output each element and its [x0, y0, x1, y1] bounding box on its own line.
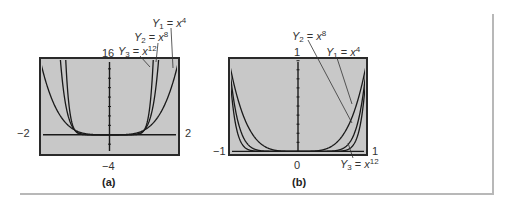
panel-b-ymax-label: 1 — [294, 47, 300, 58]
panel-b-label-y2: Y2 = x8 — [292, 30, 326, 44]
panel-a-label-y1: Y1 = x4 — [152, 17, 186, 31]
panel-a-label-y2: Y2 = x8 — [134, 31, 168, 45]
calculator-screen-b — [229, 58, 367, 155]
panel-b-xmax-label: 1 — [372, 146, 378, 157]
panel-b-ymin-label: 0 — [294, 160, 300, 171]
calculator-screen-a — [40, 49, 179, 155]
panel-a-label-y3: Y3 = x12 — [118, 45, 157, 59]
panel-b-xmin-label: −1 — [213, 146, 226, 157]
panel-b-caption: (b) — [292, 176, 306, 188]
panel-a-ymin-label: −4 — [102, 161, 115, 172]
plots-canvas — [0, 0, 512, 207]
panel-a-ymax-label: 16 — [102, 48, 114, 59]
panel-a-xmin-label: −2 — [17, 128, 30, 139]
panel-b-label-y3: Y3 = x12 — [340, 158, 379, 172]
panel-a-caption: (a) — [102, 176, 115, 188]
panel-b-label-y1: Y1 = x4 — [326, 46, 360, 60]
panel-a-xmax-label: 2 — [185, 128, 191, 139]
